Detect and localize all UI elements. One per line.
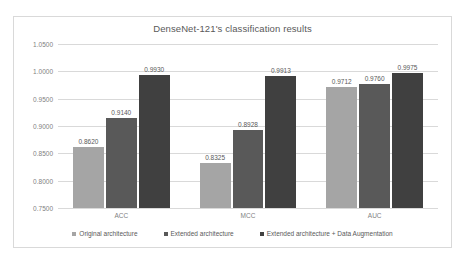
legend-label: Extended architecture + Data Augmentatio… — [267, 230, 393, 237]
bar[interactable]: 0.9140 — [106, 118, 137, 208]
bar-group-auc: 0.97120.97600.9975AUC — [326, 44, 423, 208]
bar[interactable]: 0.9975 — [392, 73, 423, 208]
legend-item[interactable]: Original architecture — [72, 230, 137, 237]
y-axis-tick-label: 0.7500 — [33, 205, 53, 212]
bar[interactable]: 0.9913 — [265, 76, 296, 208]
plot-area: 1.05001.00000.95000.90000.85000.80000.75… — [58, 44, 438, 208]
y-axis-tick-label: 0.9500 — [33, 95, 53, 102]
x-axis-category-label: MCC — [200, 212, 297, 219]
bar[interactable]: 0.8620 — [73, 147, 104, 208]
legend-item[interactable]: Extended architecture — [164, 230, 234, 237]
bar-value-label: 0.8928 — [238, 121, 258, 128]
bar[interactable]: 0.8325 — [200, 163, 231, 208]
bar-value-label: 0.8620 — [78, 138, 98, 145]
x-axis-category-label: AUC — [326, 212, 423, 219]
bar-value-label: 0.9140 — [111, 109, 131, 116]
legend-item[interactable]: Extended architecture + Data Augmentatio… — [260, 230, 393, 237]
bar-value-label: 0.9975 — [398, 64, 418, 71]
bar[interactable]: 0.9760 — [359, 84, 390, 208]
bar-value-label: 0.9760 — [365, 75, 385, 82]
bar[interactable]: 0.9930 — [139, 75, 170, 208]
legend-label: Extended architecture — [171, 230, 234, 237]
y-axis-tick-label: 1.0000 — [33, 68, 53, 75]
bar-value-label: 0.8325 — [205, 154, 225, 161]
y-axis-tick-label: 0.8000 — [33, 177, 53, 184]
chart-title: DenseNet-121's classification results — [14, 23, 451, 34]
y-axis-tick-label: 0.9000 — [33, 123, 53, 130]
y-axis-tick-label: 1.0500 — [33, 41, 53, 48]
legend-label: Original architecture — [79, 230, 137, 237]
chart-frame: DenseNet-121's classification results 1.… — [13, 16, 452, 248]
x-axis-category-label: ACC — [73, 212, 170, 219]
bar-value-label: 0.9930 — [144, 66, 164, 73]
legend-swatch-icon — [164, 232, 168, 236]
y-axis-tick-label: 0.8500 — [33, 150, 53, 157]
bar-group-mcc: 0.83250.89280.9913MCC — [200, 44, 297, 208]
bar-value-label: 0.9712 — [332, 78, 352, 85]
chart-legend: Original architectureExtended architectu… — [14, 230, 451, 237]
legend-swatch-icon — [72, 232, 76, 236]
bar[interactable]: 0.9712 — [326, 87, 357, 208]
legend-swatch-icon — [260, 232, 264, 236]
bar[interactable]: 0.8928 — [233, 130, 264, 208]
bar-group-acc: 0.86200.91400.9930ACC — [73, 44, 170, 208]
gridline — [58, 208, 438, 209]
bar-value-label: 0.9913 — [271, 67, 291, 74]
